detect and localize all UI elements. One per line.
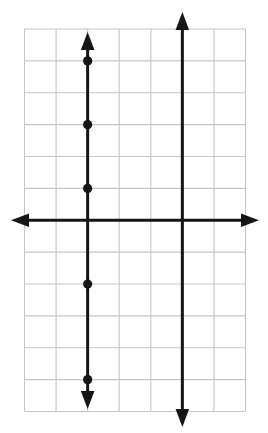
plotted-point [83, 184, 92, 193]
plotted-point [83, 56, 92, 65]
coordinate-grid-figure [0, 0, 268, 433]
plotted-point [83, 279, 92, 288]
plotted-point [83, 375, 92, 384]
figure-background [0, 0, 268, 433]
plotted-point [83, 120, 92, 129]
coordinate-plane-svg [0, 0, 268, 433]
